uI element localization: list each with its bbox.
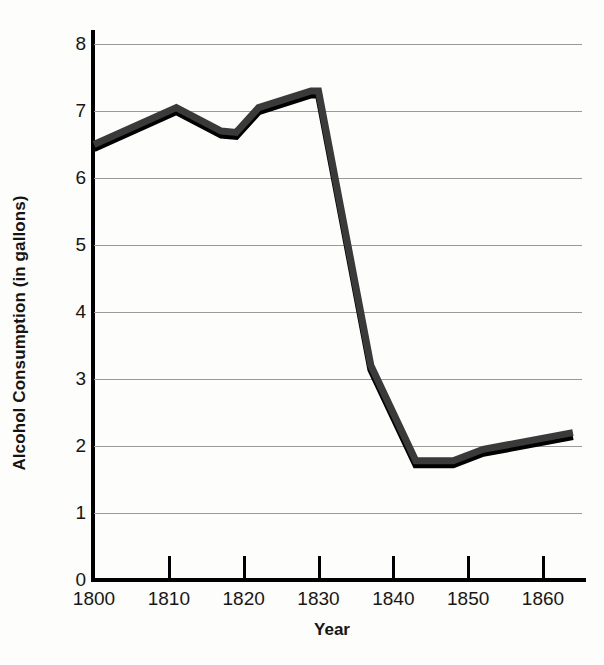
y-axis-title: Alcohol Consumption (in gallons) (10, 195, 30, 470)
gridline (94, 312, 582, 313)
y-tick-label: 2 (52, 435, 86, 457)
x-tick-mark (168, 556, 171, 580)
y-tick-label: 7 (52, 100, 86, 122)
gridline (94, 111, 582, 112)
y-axis-tick-labels: 012345678 (52, 0, 86, 665)
y-axis-title-wrapper: Alcohol Consumption (in gallons) (0, 0, 40, 665)
x-tick-label: 1820 (223, 588, 265, 610)
y-tick-label: 6 (52, 167, 86, 189)
gridline (94, 178, 582, 179)
y-tick-label: 1 (52, 502, 86, 524)
y-tick-label: 8 (52, 33, 86, 55)
plot-area (94, 44, 582, 580)
y-tick-label: 4 (52, 301, 86, 323)
gridline (94, 379, 582, 380)
x-tick-mark (243, 556, 246, 580)
y-tick-label: 5 (52, 234, 86, 256)
x-axis-title: Year (0, 620, 604, 640)
x-tick-mark (318, 556, 321, 580)
x-tick-label: 1830 (297, 588, 339, 610)
gridline (94, 446, 582, 447)
chart-container: Alcohol Consumption (in gallons) 0123456… (0, 0, 604, 665)
x-tick-label: 1800 (73, 588, 115, 610)
x-tick-label: 1860 (522, 588, 564, 610)
x-tick-label: 1850 (447, 588, 489, 610)
x-tick-mark (542, 556, 545, 580)
x-tick-mark (467, 556, 470, 580)
x-tick-label: 1840 (372, 588, 414, 610)
x-tick-label: 1810 (148, 588, 190, 610)
y-tick-label: 3 (52, 368, 86, 390)
gridline (94, 245, 582, 246)
gridline (94, 513, 582, 514)
gridline (94, 44, 582, 45)
x-tick-mark (392, 556, 395, 580)
